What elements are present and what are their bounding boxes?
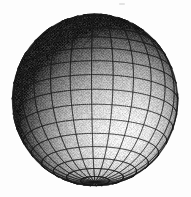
- wireframe-sphere-render: [0, 0, 191, 197]
- dust-speck-artifact: [119, 3, 125, 5]
- sphere-figure: Grayscale rendered sphere with latitude-…: [0, 0, 191, 197]
